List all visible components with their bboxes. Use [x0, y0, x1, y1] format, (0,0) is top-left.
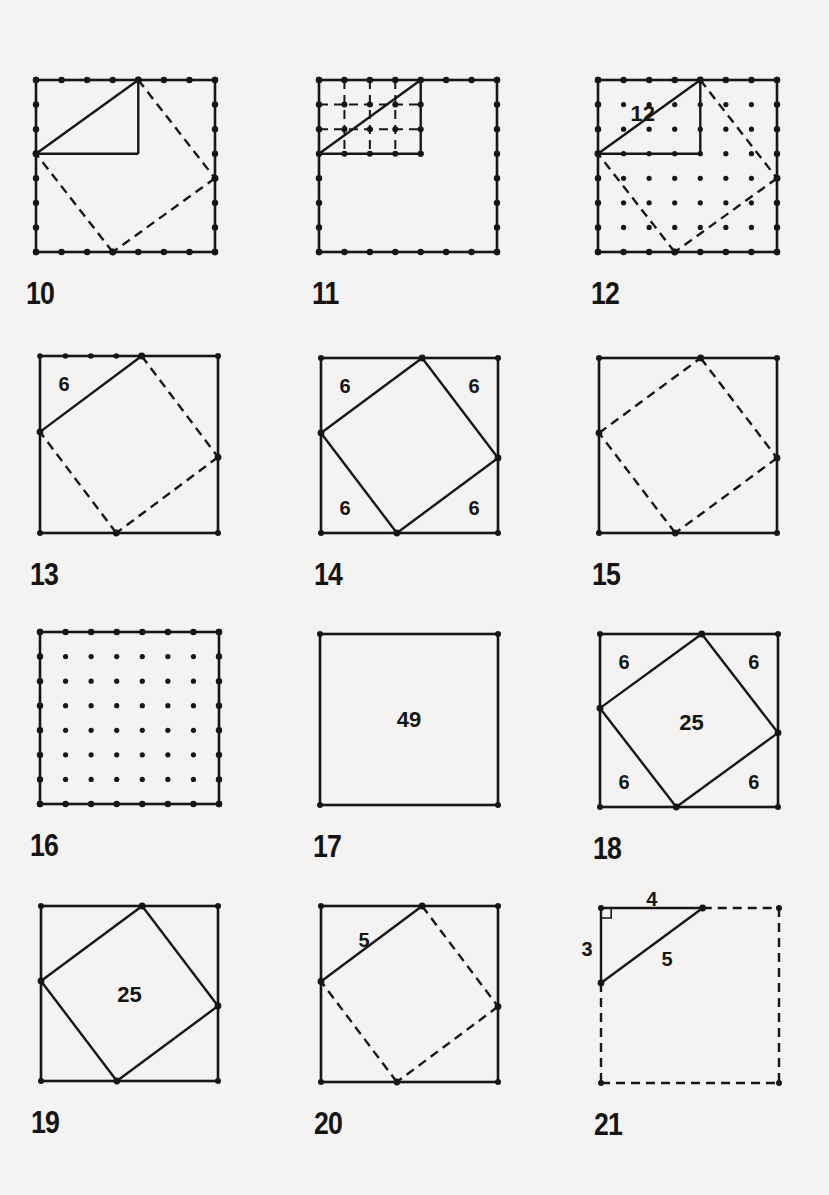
grid-dot — [494, 175, 500, 181]
panel-figure: 666625 — [600, 634, 778, 807]
panel-figure: 49 — [320, 634, 498, 805]
grid-dot — [33, 224, 39, 230]
grid-dot — [774, 126, 780, 132]
grid-dot — [595, 77, 601, 83]
tilted-square-side — [41, 981, 117, 1081]
figure-panel-13: 6 — [40, 356, 218, 533]
grid-dot — [774, 101, 780, 107]
grid-dot — [341, 102, 347, 108]
grid-dot — [110, 249, 116, 255]
grid-dot — [774, 151, 780, 157]
grid-dot — [37, 353, 43, 359]
interior-dot — [191, 679, 196, 684]
interior-dot — [114, 654, 119, 659]
grid-dot — [646, 249, 652, 255]
panel-figure: 435 — [601, 908, 779, 1083]
grid-dot — [697, 249, 703, 255]
grid-dot — [161, 249, 167, 255]
interior-dot — [621, 225, 626, 230]
figure-number: 16 — [30, 830, 58, 861]
tilted-square-side — [40, 356, 142, 432]
panel-figure — [36, 80, 215, 252]
tilted-square-side — [142, 356, 218, 457]
grid-dot — [595, 224, 601, 230]
grid-dot — [774, 200, 780, 206]
grid-dot — [165, 629, 171, 635]
tilted-square-side — [676, 733, 778, 807]
grid-dot — [595, 101, 601, 107]
grid-dot — [697, 77, 703, 83]
grid-dot — [595, 151, 601, 157]
grid-dot — [37, 530, 43, 536]
vertex-dot — [597, 705, 604, 712]
grid-dot — [598, 980, 605, 987]
vertex-dot — [495, 1003, 502, 1010]
grid-dot — [212, 101, 218, 107]
grid-dot — [212, 200, 218, 206]
grid-dot — [595, 126, 601, 132]
area-label: 49 — [397, 707, 421, 732]
grid-dot — [33, 101, 39, 107]
tilted-square-side — [702, 634, 778, 733]
vertex-dot — [419, 355, 426, 362]
interior-dot — [63, 679, 68, 684]
interior-dot — [672, 176, 677, 181]
interior-dot — [698, 151, 703, 156]
grid-dot — [596, 355, 602, 361]
grid-dot — [212, 77, 218, 83]
interior-dot — [698, 102, 703, 107]
figure-number: 17 — [313, 831, 341, 862]
tilted-square-side — [321, 906, 422, 981]
interior-dot — [621, 176, 626, 181]
grid-dot — [699, 905, 706, 912]
grid-dot — [468, 77, 474, 83]
grid-dot — [33, 175, 39, 181]
grid-dot — [598, 1080, 604, 1086]
vertex-dot — [215, 454, 222, 461]
interior-dot — [63, 777, 68, 782]
tilted-square-side — [321, 981, 397, 1082]
tilted-square-side — [701, 358, 777, 458]
area-label: 5 — [358, 929, 369, 951]
figure-panel-17: 49 — [320, 634, 498, 805]
tilted-square-side — [599, 433, 675, 533]
grid-dot — [37, 752, 43, 758]
interior-dot — [723, 176, 728, 181]
grid-dot — [38, 903, 44, 909]
tilted-square-side — [321, 358, 422, 433]
grid-dot — [316, 77, 322, 83]
grid-dot — [190, 629, 196, 635]
outer-square — [36, 80, 215, 252]
grid-dot — [494, 151, 500, 157]
area-label: 6 — [748, 771, 759, 793]
tilted-square-side — [138, 80, 215, 178]
grid-dot — [443, 77, 449, 83]
area-label: 12 — [631, 101, 655, 126]
interior-dot — [114, 752, 119, 757]
grid-dot — [595, 249, 601, 255]
interior-dot — [647, 200, 652, 205]
panel-figure: 12 — [598, 80, 777, 252]
tilted-square-side — [675, 178, 777, 252]
grid-dot — [161, 77, 167, 83]
grid-dot — [216, 752, 222, 758]
tilted-square-side — [40, 432, 116, 533]
grid-dot — [318, 530, 324, 536]
grid-dot — [84, 77, 90, 83]
interior-dot — [723, 225, 728, 230]
interior-dot — [723, 102, 728, 107]
area-label: 6 — [619, 651, 630, 673]
tilted-square-side — [142, 906, 218, 1006]
interior-dot — [165, 752, 170, 757]
vertex-dot — [215, 1003, 222, 1010]
interior-dot — [63, 752, 68, 757]
grid-dot — [212, 151, 218, 157]
grid-dot — [88, 629, 94, 635]
grid-dot — [139, 629, 145, 635]
interior-dot — [114, 777, 119, 782]
panel-figure — [40, 632, 219, 804]
grid-dot — [135, 249, 141, 255]
grid-dot — [646, 77, 652, 83]
grid-dot — [135, 77, 141, 83]
area-label: 6 — [339, 497, 350, 519]
